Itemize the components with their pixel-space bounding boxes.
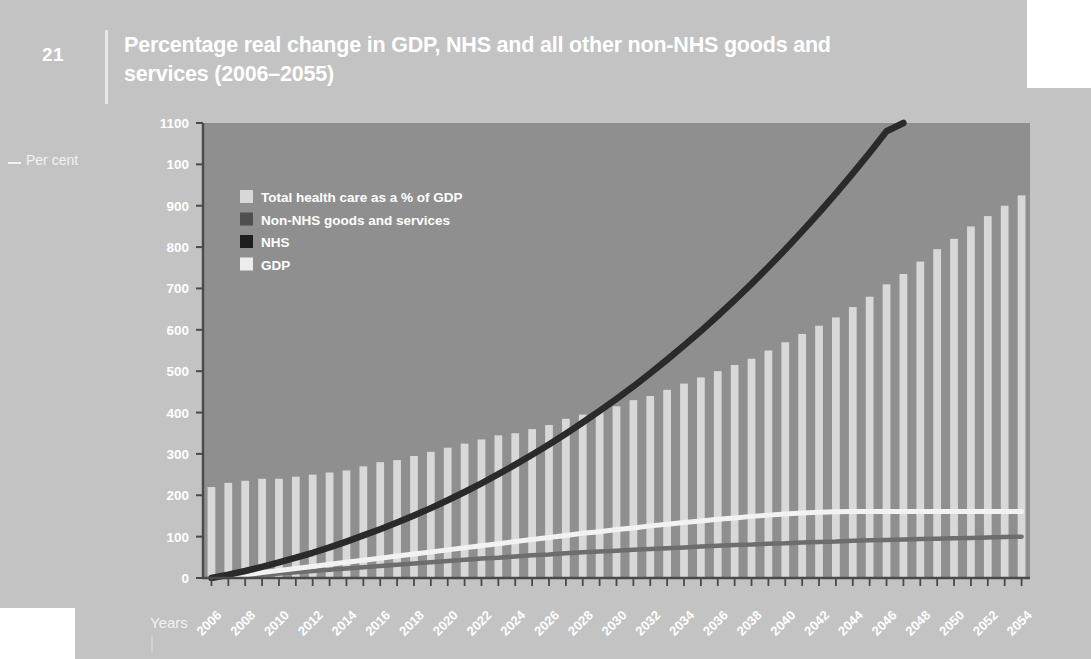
bar [224,483,232,578]
y-tick-label: 200 [166,488,189,503]
x-tick-label: 2034 [666,607,698,639]
legend-swatch [240,213,253,226]
y-tick-label: 500 [166,364,189,379]
y-tick-label: 600 [166,323,189,338]
x-tick-label: 2038 [734,608,765,639]
x-tick-label: 2048 [902,608,933,639]
bar [849,307,857,578]
bar [883,284,891,578]
legend-swatch [240,190,253,203]
bar [832,317,840,578]
x-tick-label: 2054 [1004,607,1036,639]
x-tick-label: 2036 [700,608,731,639]
bar [208,487,216,578]
y-tick-label: 800 [166,240,189,255]
bar [427,452,435,578]
bar [866,297,874,578]
bar [900,274,908,578]
x-tick-label: 2008 [227,608,258,639]
x-tick-label: 2042 [801,608,832,639]
bar [309,475,317,578]
legend-swatch [240,258,253,271]
y-tick-label: 0 [181,571,189,586]
x-tick-label: 2006 [194,608,225,639]
x-tick-label: 2028 [565,608,596,639]
bar [241,481,249,578]
bar [444,448,452,578]
x-tick-label: 2016 [362,608,393,639]
x-tick-label: 2026 [531,608,562,639]
bar [292,477,300,578]
x-tick-label: 2020 [430,608,461,639]
x-axis-tick-labels: 2006200820102012201420162018202020222024… [194,607,1036,639]
chart-container: 01002003004005006007008009001001100 2006… [0,0,1091,659]
legend-label: NHS [261,235,290,250]
bar [933,249,941,578]
y-tick-label: 100 [166,530,189,545]
bar [950,239,958,578]
y-tick-label: 100 [166,157,189,172]
bar [916,262,924,578]
y-tick-label: 300 [166,447,189,462]
legend-label: Total health care as a % of GDP [261,190,463,205]
x-tick-label: 2050 [936,608,967,639]
y-tick-label: 400 [166,406,189,421]
legend-label: Non-NHS goods and services [261,213,450,228]
x-tick-label: 2012 [295,608,326,639]
bar [984,216,992,578]
x-tick-label: 2030 [599,608,630,639]
y-axis-tick-labels: 01002003004005006007008009001001100 [160,116,189,586]
gdp-nhs-line-bar-chart: 01002003004005006007008009001001100 2006… [0,0,1091,659]
legend-label: GDP [261,258,290,273]
x-tick-label: 2040 [767,608,798,639]
x-tick-label: 2014 [329,607,361,639]
y-tick-label: 700 [166,281,189,296]
x-tick-label: 2046 [869,608,900,639]
x-tick-label: 2024 [497,607,529,639]
bar [1018,195,1026,578]
x-tick-label: 2022 [464,608,495,639]
legend-swatch [240,235,253,248]
bar [1001,206,1009,578]
x-tick-label: 2018 [396,608,427,639]
x-tick-label: 2010 [261,608,292,639]
bar [967,226,975,578]
x-tick-label: 2044 [835,607,867,639]
y-tick-label: 900 [166,199,189,214]
x-tick-label: 2032 [632,608,663,639]
x-tick-label: 2052 [970,608,1001,639]
y-tick-label: 1100 [160,116,189,131]
